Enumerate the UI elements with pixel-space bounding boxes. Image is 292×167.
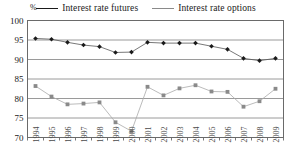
y-tick-label: 80: [15, 94, 25, 104]
data-point: [225, 47, 230, 52]
data-point: [194, 83, 198, 87]
x-tick-label: 1994: [32, 127, 41, 143]
data-series: [33, 36, 278, 133]
data-point: [162, 93, 166, 97]
y-tick-label: 100: [10, 16, 24, 26]
data-point: [82, 102, 86, 106]
data-point: [274, 87, 278, 91]
x-tick-label: 2000: [128, 127, 137, 143]
y-tick-label: 95: [15, 35, 25, 45]
data-point: [242, 105, 246, 109]
data-point: [161, 41, 166, 46]
data-point: [81, 43, 86, 48]
data-point: [113, 50, 118, 55]
data-point: [65, 40, 70, 45]
y-tick-label: 70: [15, 133, 25, 143]
data-point: [210, 90, 214, 94]
plot-area: 707580859095100 199419951996199719981999…: [0, 0, 292, 167]
x-tick-label: 1998: [96, 127, 105, 143]
y-tick-label: 90: [15, 55, 25, 65]
data-point: [50, 95, 54, 99]
x-tick-label: 1999: [112, 127, 121, 143]
data-point: [177, 41, 182, 46]
x-tick-label: 2001: [144, 127, 153, 143]
data-point: [49, 37, 54, 42]
data-point: [34, 84, 38, 88]
data-point: [193, 41, 198, 46]
data-point: [146, 85, 150, 89]
data-point: [97, 44, 102, 49]
x-tick-label: 2008: [256, 127, 265, 143]
x-tick-label: 1997: [80, 127, 89, 143]
data-point: [209, 44, 214, 49]
data-point: [178, 86, 182, 90]
x-tick-label: 2004: [192, 127, 201, 143]
data-point: [226, 90, 230, 94]
data-point: [129, 50, 134, 55]
data-point: [98, 101, 102, 105]
data-point: [145, 40, 150, 45]
x-tick-label: 1995: [48, 127, 57, 143]
x-tick-label: 2009: [272, 127, 281, 143]
chart-svg: 707580859095100 199419951996199719981999…: [0, 0, 292, 167]
x-tick-label: 2006: [224, 127, 233, 143]
x-tick-labels: 1994199519961997199819992000200120022003…: [32, 127, 281, 143]
data-point: [258, 99, 262, 103]
y-tick-labels: 707580859095100: [10, 16, 24, 143]
x-tick-label: 1996: [64, 127, 73, 143]
x-tick-label: 2003: [176, 127, 185, 143]
data-point: [114, 120, 118, 124]
chart-root: Interest rate futures Interest rate opti…: [0, 0, 292, 167]
x-tick-label: 2002: [160, 127, 169, 143]
x-tick-label: 2007: [240, 127, 249, 143]
y-tick-label: 75: [15, 113, 25, 123]
series-options: [34, 83, 278, 133]
data-point: [66, 102, 70, 106]
x-tick-label: 2005: [208, 127, 217, 143]
y-tick-label: 85: [15, 74, 25, 84]
